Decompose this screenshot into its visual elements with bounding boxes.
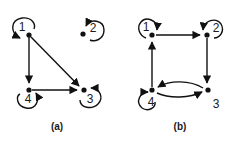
node-label-b-1: 1 — [143, 20, 150, 34]
node-a-1 — [26, 32, 31, 37]
node-label-b-2: 2 — [213, 21, 220, 35]
edge-b-4-to-3 — [157, 92, 202, 97]
panel-b: 1 2 3 4 (b) — [139, 19, 223, 132]
node-b-4 — [149, 87, 154, 92]
node-a-2 — [80, 31, 85, 36]
edge-b-3-to-4 — [158, 82, 203, 88]
node-label-a-2: 2 — [90, 21, 97, 35]
node-label-a-3: 3 — [87, 92, 94, 106]
caption-a: (a) — [51, 121, 63, 132]
relation-digraphs-figure: 1 2 3 4 (a) 1 2 3 4 (b) — [0, 0, 246, 141]
caption-b: (b) — [174, 121, 187, 132]
node-label-a-1: 1 — [19, 20, 26, 34]
node-b-3 — [205, 87, 210, 92]
node-label-a-4: 4 — [25, 92, 32, 106]
node-b-1 — [149, 32, 154, 37]
node-label-b-3: 3 — [213, 97, 220, 111]
node-b-2 — [204, 32, 209, 37]
node-label-b-4: 4 — [148, 95, 155, 109]
edge-a-1-to-3 — [31, 37, 79, 86]
panel-a: 1 2 3 4 (a) — [13, 18, 104, 132]
